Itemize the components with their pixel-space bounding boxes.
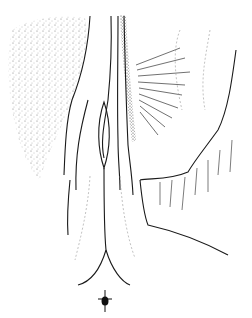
bottom-dark-node — [98, 290, 112, 312]
right-outline — [140, 50, 236, 255]
drawing-canvas — [0, 0, 252, 318]
left-stippled-region — [8, 17, 86, 181]
anatomical-line-drawing — [0, 0, 252, 318]
right-stippled-band — [120, 15, 136, 142]
vertical-hatching — [160, 140, 232, 210]
radiating-fibers — [136, 48, 190, 135]
faint-dashed-outlines — [75, 30, 210, 260]
